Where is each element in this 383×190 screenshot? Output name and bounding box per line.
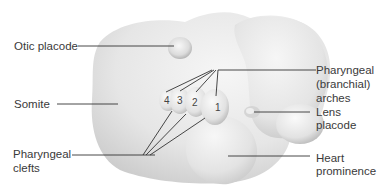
label-pharyngeal-clefts-line2: clefts <box>13 162 40 175</box>
label-heart-prominence-line1: Heart <box>316 152 344 165</box>
embryo-diagram: 4 3 2 1 Otic placode Somite Pharyngeal c… <box>0 0 383 190</box>
label-pharyngeal-clefts-line1: Pharyngeal <box>13 148 71 161</box>
label-pharyngeal-arches-line3: arches <box>316 92 351 105</box>
arch-number-1: 1 <box>215 102 221 113</box>
arch-number-2: 2 <box>192 97 198 108</box>
label-otic-placode: Otic placode <box>14 40 78 53</box>
arch-number-3: 3 <box>177 95 183 106</box>
otic-placode <box>168 37 192 59</box>
label-heart-prominence-line2: prominence <box>316 165 376 178</box>
label-somite: Somite <box>14 98 50 111</box>
label-lens-placode-line2: placode <box>316 119 356 132</box>
label-lens-placode-line1: Lens <box>316 106 341 119</box>
label-pharyngeal-arches-line2: (branchial) <box>316 78 370 91</box>
arch-number-4: 4 <box>164 95 170 106</box>
label-pharyngeal-arches-line1: Pharyngeal <box>316 64 374 77</box>
